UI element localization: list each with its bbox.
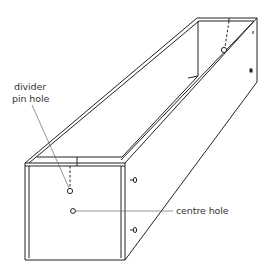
back-side-mark-lower [250, 69, 252, 72]
divider-pin-hole-label: divider pin hole [14, 81, 49, 105]
right-side-face [125, 18, 257, 260]
back-pin-dashed-line [225, 21, 229, 47]
divider-pin-hole-icon [67, 188, 72, 193]
left-top-rim [25, 18, 199, 163]
right-top-rim [121, 18, 257, 163]
divider-label-line-2: pin hole [12, 93, 49, 105]
back-top-rim [197, 18, 257, 21]
centre-hole-icon [71, 209, 76, 214]
centre-hole-text: centre hole [176, 205, 229, 216]
trough-diagram [0, 0, 272, 273]
divider-label-line-1: divider [14, 81, 49, 93]
side-screw-lower-icon [130, 227, 137, 232]
centre-hole-label: centre hole [176, 205, 229, 217]
divider-pin-hole-leader [32, 105, 69, 188]
back-pin-hole-icon [221, 47, 226, 52]
side-screw-upper-icon [130, 177, 137, 182]
